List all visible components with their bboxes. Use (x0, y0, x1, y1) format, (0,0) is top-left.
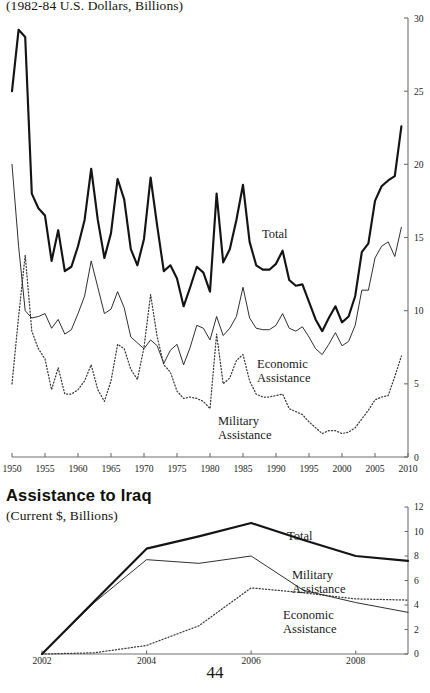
page-number: 44 (0, 663, 430, 683)
svg-text:1975: 1975 (167, 463, 186, 474)
top-chart-label-total: Total (262, 228, 288, 242)
svg-text:0: 0 (414, 452, 419, 463)
svg-text:4: 4 (414, 599, 419, 610)
bottom-chart-figure: Assistance to Iraq (Current $, Billions)… (0, 480, 430, 665)
page-root: (1982-84 U.S. Dollars, Billions) 0510152… (0, 0, 430, 693)
svg-text:25: 25 (414, 86, 424, 97)
svg-text:1955: 1955 (35, 463, 54, 474)
svg-text:20: 20 (414, 159, 424, 170)
svg-text:12: 12 (414, 501, 424, 512)
top-chart-figure: (1982-84 U.S. Dollars, Billions) 0510152… (0, 0, 430, 480)
svg-text:2: 2 (414, 624, 419, 635)
bottom-chart-plot: 0246810122002200420062008 (0, 480, 430, 665)
svg-text:0: 0 (414, 648, 419, 659)
bottom-chart-label-military-line1: Military (292, 569, 333, 583)
svg-text:5: 5 (414, 378, 419, 389)
svg-text:2010: 2010 (398, 463, 417, 474)
svg-text:2005: 2005 (365, 463, 384, 474)
bottom-chart-label-total: Total (287, 530, 313, 544)
svg-text:30: 30 (414, 13, 424, 24)
top-chart-label-military-line1: Military (218, 415, 259, 429)
bottom-chart-label-economic-line2: Assistance (283, 623, 336, 637)
svg-text:6: 6 (414, 575, 419, 586)
bottom-chart-label-economic-line1: Economic (283, 609, 334, 623)
svg-text:1995: 1995 (299, 463, 318, 474)
top-chart-label-economic-line2: Assistance (257, 372, 310, 386)
top-chart-label-economic-line1: Economic (257, 358, 308, 372)
top-chart-plot: 0510152025301950195519601965197019751980… (0, 0, 430, 480)
svg-text:15: 15 (414, 232, 424, 243)
svg-text:10: 10 (414, 305, 424, 316)
svg-text:8: 8 (414, 550, 419, 561)
svg-text:2000: 2000 (332, 463, 351, 474)
svg-text:10: 10 (414, 526, 424, 537)
svg-text:1950: 1950 (2, 463, 21, 474)
svg-text:1990: 1990 (266, 463, 285, 474)
bottom-chart-label-military-line2: Assistance (292, 583, 345, 597)
svg-text:1970: 1970 (134, 463, 153, 474)
svg-text:1985: 1985 (233, 463, 252, 474)
svg-text:1980: 1980 (200, 463, 219, 474)
svg-text:1960: 1960 (68, 463, 87, 474)
svg-text:1965: 1965 (101, 463, 120, 474)
top-chart-label-military-line2: Assistance (218, 429, 271, 443)
